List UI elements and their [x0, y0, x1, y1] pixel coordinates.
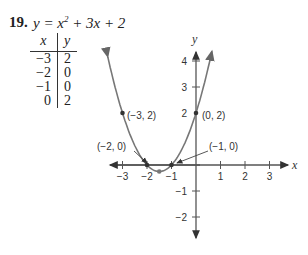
x-axis-label: x	[291, 158, 298, 172]
point-label-neg1-0: (−1, 0)	[209, 141, 238, 152]
y-tick-label: −2	[176, 212, 188, 223]
data-point	[145, 163, 150, 168]
data-point	[120, 111, 125, 116]
y-tick-label: 3	[181, 82, 187, 93]
y-axis-label: y	[191, 32, 198, 46]
parabola-plot: x y −3−2−1123−2−1234 (−2, 0) (−1, 0) (−3…	[0, 0, 308, 255]
point-label-neg3-2: (−3, 2)	[127, 110, 156, 121]
point-label-0-2: (0, 2)	[202, 110, 225, 121]
data-point	[194, 111, 199, 116]
y-tick-label: 4	[181, 56, 187, 67]
axis-ticks: −3−2−1123−2−1234	[117, 56, 273, 223]
y-tick-label: −1	[176, 186, 188, 197]
data-point	[169, 163, 174, 168]
x-tick-label: −1	[166, 171, 178, 182]
y-tick-label: 2	[181, 108, 187, 119]
point-label-neg2-0: (−2, 0)	[97, 141, 126, 152]
x-tick-label: −3	[117, 171, 129, 182]
x-tick-label: 3	[267, 171, 273, 182]
x-tick-label: 2	[242, 171, 248, 182]
x-tick-label: −2	[141, 171, 153, 182]
data-point	[157, 169, 162, 174]
x-tick-label: 1	[218, 171, 224, 182]
